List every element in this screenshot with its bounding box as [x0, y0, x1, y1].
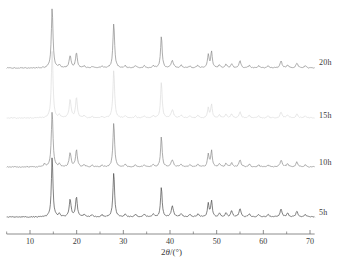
xrd-traces-group — [7, 9, 315, 217]
x-axis-group — [7, 230, 315, 234]
x-tick-label-70: 70 — [306, 237, 314, 246]
x-tick-label-20: 20 — [73, 237, 81, 246]
axis-title-unit: /(°) — [170, 247, 182, 257]
x-tick-label-50: 50 — [213, 237, 221, 246]
x-tick-label-40: 40 — [166, 237, 174, 246]
x-axis-title: 2θ/(°) — [0, 247, 343, 257]
x-tick-label-30: 30 — [119, 237, 127, 246]
series-label-10h: 10h — [319, 158, 332, 167]
xrd-chart: 20h 15h 10h 5h 10203040506070 2θ/(°) — [0, 0, 343, 268]
series-label-5h: 5h — [319, 208, 327, 217]
xrd-trace-15h — [7, 51, 315, 118]
xrd-trace-10h — [7, 112, 315, 167]
series-label-20h: 20h — [319, 58, 332, 67]
x-tick-label-60: 60 — [259, 237, 267, 246]
xrd-trace-5h — [7, 158, 315, 217]
xrd-plot-area — [0, 0, 343, 268]
series-label-15h: 15h — [319, 111, 332, 120]
x-tick-label-10: 10 — [26, 237, 34, 246]
